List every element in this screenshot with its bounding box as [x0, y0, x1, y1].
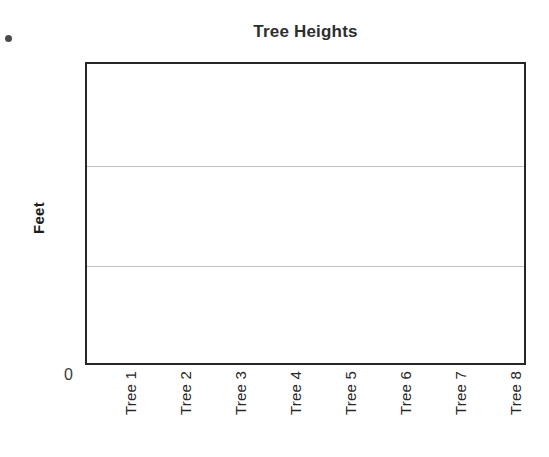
- gridline-upper: [87, 166, 524, 167]
- gridline-lower: [87, 266, 524, 267]
- x-axis-labels: Tree 1 Tree 2 Tree 3 Tree 4 Tree 5 Tree …: [85, 365, 526, 457]
- plot-area: [85, 62, 526, 365]
- y-axis-tick-zero: 0: [64, 366, 73, 384]
- chart-screenshot: Tree Heights Feet 0 Tree 1 Tree 2 Tree 3…: [0, 0, 549, 457]
- chart-title-text: Tree Heights: [253, 22, 357, 42]
- y-axis-label: Feet: [30, 202, 47, 234]
- chart-title: Tree Heights: [0, 22, 549, 42]
